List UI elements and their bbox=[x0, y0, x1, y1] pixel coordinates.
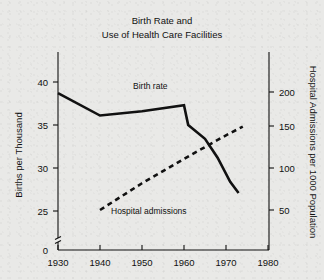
left-axis: 40 35 30 25 0 Births per Thousand bbox=[13, 52, 61, 256]
right-tick-label-50: 50 bbox=[279, 205, 290, 216]
chart-title-line-1: Birth Rate and bbox=[132, 15, 193, 26]
left-tick-label-30: 30 bbox=[37, 163, 48, 174]
right-axis-title: Hospital Admissions per 1000 Population bbox=[308, 66, 319, 239]
chart-figure: Birth Rate and Use of Health Care Facili… bbox=[0, 0, 324, 280]
x-tick-label-1960: 1960 bbox=[173, 257, 194, 268]
left-tick-label-35: 35 bbox=[37, 120, 48, 131]
left-axis-origin-label: 0 bbox=[43, 245, 48, 256]
left-tick-label-40: 40 bbox=[37, 77, 48, 88]
right-tick-label-100: 100 bbox=[279, 163, 295, 174]
birth-rate-chart-svg: Birth Rate and Use of Health Care Facili… bbox=[0, 0, 324, 280]
x-axis: 1930 1940 1950 1960 1970 1980 bbox=[47, 245, 278, 268]
right-tick-label-150: 150 bbox=[279, 121, 295, 132]
left-tick-label-25: 25 bbox=[37, 206, 48, 217]
x-tick-label-1970: 1970 bbox=[215, 257, 236, 268]
series-annotation-birth-rate: Birth rate bbox=[133, 81, 168, 91]
right-axis: 200 150 100 50 Hospital Admissions per 1… bbox=[269, 52, 319, 250]
x-tick-label-1950: 1950 bbox=[131, 257, 152, 268]
x-tick-label-1930: 1930 bbox=[47, 257, 68, 268]
x-tick-label-1940: 1940 bbox=[89, 257, 110, 268]
series-annotation-hospital-admissions: Hospital admissions bbox=[111, 206, 187, 216]
x-tick-label-1980: 1980 bbox=[257, 257, 278, 268]
series-line-hospital-admissions bbox=[100, 127, 243, 210]
chart-title-line-2: Use of Health Care Facilities bbox=[102, 29, 223, 40]
left-axis-title: Births per Thousand bbox=[13, 112, 24, 197]
right-tick-label-200: 200 bbox=[279, 87, 295, 98]
